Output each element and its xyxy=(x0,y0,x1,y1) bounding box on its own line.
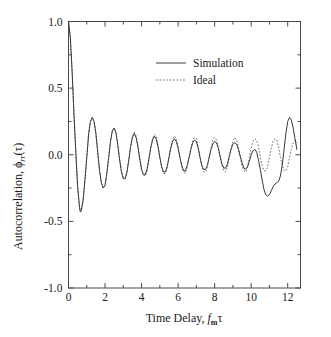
y-tick-labels: -1.0-0.50.00.51.0 xyxy=(44,16,62,295)
legend-label-simulation: Simulation xyxy=(193,57,244,69)
x-tick-label: 0 xyxy=(66,291,72,303)
y-axis-title: Autocorrelation, ϕrr(τ) xyxy=(11,143,27,250)
x-axis-title: Time Delay, fmτ xyxy=(146,311,223,327)
x-tick-label: 8 xyxy=(212,291,218,303)
x-tick-label: 2 xyxy=(102,291,108,303)
x-tick-labels: 024681012 xyxy=(66,291,294,303)
y-tick-label: 1.0 xyxy=(48,16,63,28)
chart-canvas: 024681012 -1.0-0.50.00.51.0 Simulation I… xyxy=(0,0,331,337)
data-series-group xyxy=(69,22,297,213)
x-tick-label: 12 xyxy=(282,291,294,303)
x-tick-label: 10 xyxy=(245,291,257,303)
x-axis-title-prefix: Time Delay, xyxy=(146,311,208,325)
y-tick-label: -1.0 xyxy=(44,282,62,294)
legend-label-ideal: Ideal xyxy=(193,74,216,86)
y-tick-label: 0.0 xyxy=(48,149,63,161)
y-axis-title-suffix: (τ) xyxy=(11,143,25,156)
autocorrelation-chart-figure: 024681012 -1.0-0.50.00.51.0 Simulation I… xyxy=(0,0,331,337)
series-line-simulation xyxy=(69,22,297,213)
x-axis-title-tau-icon: τ xyxy=(217,311,222,325)
y-tick-label: 0.5 xyxy=(48,82,63,94)
y-axis-title-prefix: Autocorrelation, xyxy=(11,168,25,250)
svg-text:Autocorrelation, ϕrr(τ): Autocorrelation, ϕrr(τ) xyxy=(11,143,27,250)
plot-frame xyxy=(69,22,301,289)
x-tick-label: 6 xyxy=(175,291,181,303)
y-tick-label: -0.5 xyxy=(44,215,62,227)
svg-text:Time Delay, fmτ: Time Delay, fmτ xyxy=(146,311,223,327)
x-axis-ticks xyxy=(69,22,288,289)
y-axis-ticks xyxy=(69,22,301,289)
chart-legend: Simulation Ideal xyxy=(156,57,244,86)
x-tick-label: 4 xyxy=(139,291,145,303)
